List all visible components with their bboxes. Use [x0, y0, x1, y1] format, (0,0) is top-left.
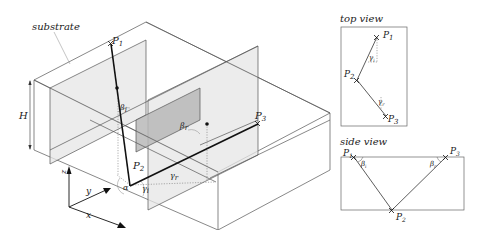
x-axis-label: x — [86, 210, 91, 220]
gamma-r-label: γr — [170, 171, 179, 182]
side-view-incident-line — [354, 157, 392, 210]
side-beta-i-label: βi — [360, 160, 367, 169]
side-p1-label: P1 — [342, 148, 353, 159]
side-p2-label: P2 — [395, 212, 406, 223]
substrate-leader-line — [54, 32, 70, 64]
top-p2-label: P2 — [343, 69, 355, 81]
top-p2-marker-icon — [354, 78, 359, 83]
substrate-label: substrate — [32, 21, 80, 32]
top-p3-label: P3 — [387, 114, 399, 126]
side-view-reflected-line — [392, 157, 446, 210]
left-incidence-plane — [50, 40, 146, 164]
alpha-label: α — [123, 183, 129, 192]
side-p3-label: P3 — [449, 146, 460, 157]
reflection-geometry-diagram: substrate H — [0, 0, 482, 230]
height-label: H — [18, 110, 28, 121]
reflected-ray-marker — [205, 122, 209, 126]
height-arrow-top-icon — [28, 80, 31, 85]
side-view-panel: side view P1 P2 P3 βi βr — [340, 136, 464, 223]
top-view-title: top view — [340, 13, 383, 24]
beta-i-label: βi — [119, 103, 127, 114]
main-3d-view: substrate H — [18, 21, 330, 230]
height-arrow-bottom-icon — [28, 145, 31, 150]
beta-r-label: βr — [179, 121, 189, 132]
side-view-title: side view — [340, 136, 388, 147]
side-beta-r-arc — [437, 157, 441, 162]
incident-ray-marker — [115, 86, 119, 90]
top-gamma-r-label: γr — [378, 98, 385, 107]
gamma-i-label: γi — [142, 184, 149, 195]
p2-label: P2 — [132, 160, 145, 173]
side-beta-r-label: βr — [429, 160, 437, 169]
top-p1-marker-icon — [374, 35, 379, 40]
top-gamma-i-label: γi — [369, 54, 375, 63]
y-axis-label: y — [85, 186, 92, 196]
top-p1-label: P1 — [382, 30, 394, 42]
x-axis — [69, 207, 121, 226]
top-view-panel: top view P1 P2 P3 γi γr — [340, 13, 407, 126]
side-p3-marker-icon — [443, 155, 448, 160]
z-axis-label: z — [59, 169, 68, 175]
